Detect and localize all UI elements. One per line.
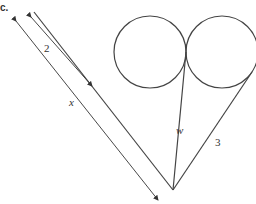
left-circle bbox=[114, 16, 186, 88]
right-tangent-line-3 bbox=[173, 72, 252, 190]
part-label: c. bbox=[0, 2, 8, 13]
dimension-arrow-x bbox=[16, 21, 158, 200]
label-w: w bbox=[176, 124, 183, 136]
label-x: x bbox=[69, 96, 74, 108]
left-tangent-line bbox=[34, 12, 173, 190]
diagram-canvas bbox=[0, 0, 256, 204]
right-circle bbox=[186, 16, 256, 88]
label-3: 3 bbox=[215, 136, 221, 148]
label-2: 2 bbox=[44, 42, 50, 54]
